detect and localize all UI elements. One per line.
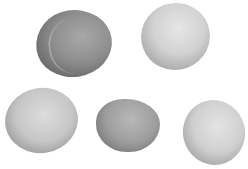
- stone-bottom-center: [96, 99, 160, 152]
- stone-ridge: [45, 15, 104, 78]
- stone-top-left: [32, 5, 117, 82]
- stone-bottom-right: [177, 94, 248, 169]
- stone-top-right: [132, 0, 220, 80]
- stone-bottom-left: [0, 82, 83, 159]
